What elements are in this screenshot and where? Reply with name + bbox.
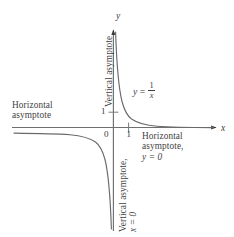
equation-equals-sign: = [140, 86, 145, 97]
equation-lhs: y [133, 86, 137, 97]
vertical-asymptote-bottom-label: Vertical asymptote, x = 0 [118, 134, 139, 232]
origin-label: 0 [104, 129, 109, 139]
horizontal-asymptote-right-line3: y = 0 [142, 152, 184, 162]
x-axis-label: x [221, 123, 225, 134]
horizontal-asymptote-left-label: Horizontal asymptote [12, 100, 53, 121]
figure-canvas: y x 0 1 1 y = 1 x Horizontal asymptote H… [0, 0, 234, 237]
horizontal-asymptote-left-line1: Horizontal [12, 100, 53, 110]
equation-denominator: x [150, 91, 154, 100]
horizontal-asymptote-right-line1: Horizontal [142, 131, 184, 141]
hyperbola-branch-positive [116, 32, 213, 128]
y-tick-label-1: 1 [101, 106, 106, 116]
horizontal-asymptote-right-line2: asymptote, [142, 141, 184, 151]
vertical-asymptote-top-label: Vertical asymptote [104, 36, 114, 107]
horizontal-asymptote-left-line2: asymptote [12, 110, 53, 120]
horizontal-asymptote-right-label: Horizontal asymptote, y = 0 [142, 131, 184, 162]
equation-label: y = 1 x [133, 82, 155, 101]
vertical-asymptote-bottom-line2: x = 0 [128, 134, 138, 232]
equation-fraction: 1 x [148, 82, 155, 101]
y-axis-label: y [116, 11, 120, 22]
hyperbola-branch-negative [14, 133, 111, 229]
vertical-asymptote-bottom-line1: Vertical asymptote, [118, 134, 128, 232]
equation-numerator: 1 [150, 82, 154, 91]
